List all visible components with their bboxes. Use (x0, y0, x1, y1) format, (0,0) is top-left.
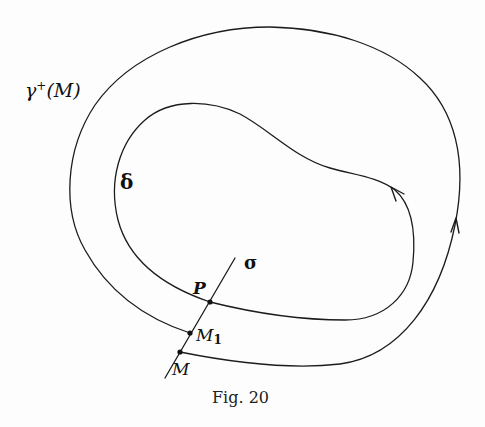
label-P: P (193, 280, 206, 297)
label-M1: M1 (196, 327, 222, 346)
inner-cycle-delta (114, 103, 413, 320)
point-M (177, 349, 182, 354)
label-delta: δ (120, 172, 133, 192)
diagram-svg (0, 0, 485, 427)
label-gamma-plus-M: γ+(M) (25, 80, 81, 100)
label-M: M (172, 361, 189, 378)
point-P (207, 299, 212, 304)
label-sigma: σ (244, 254, 257, 272)
figure-caption: Fig. 20 (212, 388, 269, 407)
point-M1 (187, 330, 192, 335)
figure-canvas: γ+(M) δ σ P M1 M Fig. 20 (0, 0, 485, 427)
